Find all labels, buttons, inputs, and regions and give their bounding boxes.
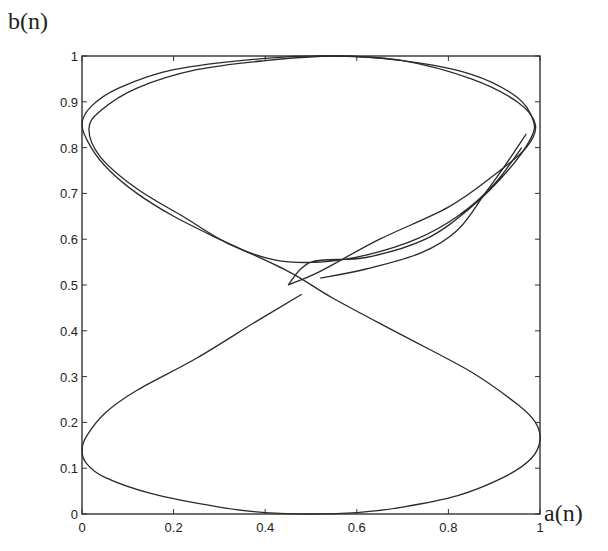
y-tick-label: 0.7 [60,186,78,201]
y-tick-label: 0 [71,507,78,522]
curve-trajectory [82,56,540,514]
axis-ticks: 00.20.40.60.8100.10.20.30.40.50.60.70.80… [60,49,544,535]
x-tick-label: 0.8 [439,520,457,535]
trajectory-curves [82,56,540,514]
y-tick-label: 0.8 [60,141,78,156]
y-tick-label: 0.5 [60,278,78,293]
y-tick-label: 0.9 [60,95,78,110]
x-tick-label: 1 [536,520,543,535]
y-tick-label: 0.4 [60,324,78,339]
x-tick-label: 0 [78,520,85,535]
y-tick-label: 0.6 [60,232,78,247]
y-tick-label: 0.1 [60,461,78,476]
curve-upper-loop-pass-2 [89,56,535,285]
curve-upper-loop-pass-3 [320,134,526,278]
x-tick-label: 0.2 [165,520,183,535]
x-tick-label: 0.6 [348,520,366,535]
y-tick-label: 1 [71,49,78,64]
y-tick-label: 0.2 [60,415,78,430]
phase-plot: 00.20.40.60.8100.10.20.30.40.50.60.70.80… [0,0,608,551]
y-tick-label: 0.3 [60,370,78,385]
x-tick-label: 0.4 [256,520,274,535]
